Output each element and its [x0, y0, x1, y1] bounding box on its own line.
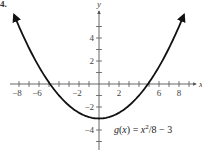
svg-text:2: 2	[90, 56, 95, 66]
svg-text:8: 8	[177, 88, 182, 98]
problem-number: 4.	[0, 0, 7, 9]
svg-text:−6: −6	[32, 88, 42, 98]
svg-text:−4: −4	[84, 125, 94, 135]
svg-text:−2: −2	[84, 102, 94, 112]
svg-text:−2: −2	[72, 88, 82, 98]
svg-text:4: 4	[90, 33, 95, 43]
svg-text:2: 2	[117, 88, 122, 98]
x-axis-tick-labels: −8−6−2268	[12, 88, 182, 98]
x-axis-label: x	[198, 79, 202, 89]
function-graph: 4. −8−6−2268 42−2−4 x y g(x) = x2/8 − 3	[0, 0, 202, 153]
svg-text:−8: −8	[12, 88, 22, 98]
y-axis-label: y	[96, 0, 101, 9]
svg-text:6: 6	[157, 88, 162, 98]
function-label: g(x) = x2/8 − 3	[114, 123, 172, 136]
